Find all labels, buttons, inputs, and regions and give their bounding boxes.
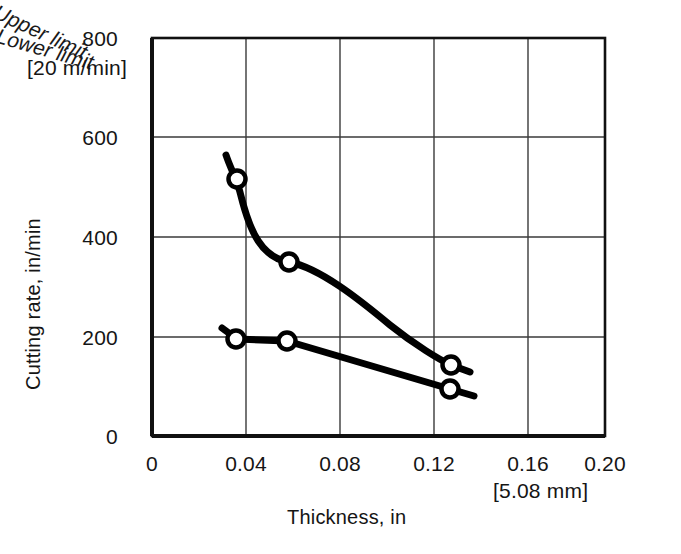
chart-figure: 800 600 400 200 0 [20 m/min] 0 0.04 0.08… <box>0 0 681 554</box>
y-axis-title: Cutting rate, in/min <box>22 218 45 390</box>
upper-limit-point-1 <box>229 171 246 188</box>
y-tick-label-0: 0 <box>38 425 118 449</box>
y-tick-label-600: 600 <box>38 126 118 150</box>
x-tick-label-008: 0.08 <box>295 452 385 476</box>
x-tick-label-0: 0 <box>107 452 197 476</box>
x-axis-unit-note: [5.08 mm] <box>493 479 588 503</box>
upper-limit-point-2 <box>281 254 298 271</box>
x-tick-label-012: 0.12 <box>389 452 479 476</box>
x-axis-title: Thickness, in <box>287 506 406 529</box>
y-tick-label-200: 200 <box>38 326 118 350</box>
lower-limit-point-2 <box>279 333 296 350</box>
lower-limit-point-1 <box>228 331 245 348</box>
y-tick-label-400: 400 <box>38 226 118 250</box>
lower-limit-curve <box>222 328 474 396</box>
lower-limit-point-3 <box>442 381 459 398</box>
upper-limit-point-3 <box>443 357 460 374</box>
x-tick-label-004: 0.04 <box>201 452 291 476</box>
x-tick-label-020: 0.20 <box>560 452 650 476</box>
series-lower-limit <box>222 328 474 398</box>
